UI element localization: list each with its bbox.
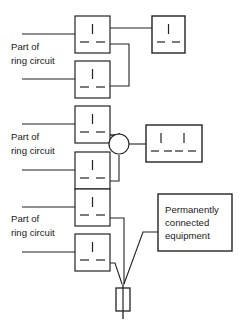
- twin-socket-outlet-2c: [146, 125, 202, 162]
- fuse-wire-upper: [110, 218, 124, 284]
- spur-socket-outlet-1c: [152, 16, 185, 53]
- socket-outlet-3a: [75, 189, 110, 226]
- socket-body: [75, 16, 110, 53]
- socket-body: [146, 125, 202, 162]
- socket-body: [75, 189, 110, 226]
- socket-body: [152, 16, 185, 53]
- junction-wire-lower-path: [110, 155, 119, 181]
- socket-body: [75, 152, 110, 189]
- row-3-group: Permanently connected equipment Part of …: [11, 189, 232, 319]
- fuse-unit-3: [116, 284, 130, 319]
- diagram-canvas: Part of ring circuit: [0, 0, 240, 326]
- socket-outlet-2a: [75, 106, 110, 143]
- row-2-group: Part of ring circuit: [11, 106, 202, 189]
- socket-outlet-1a: [75, 16, 110, 53]
- row-1-group: Part of ring circuit: [11, 16, 185, 98]
- ring-circuit-caption-3-line2: ring circuit: [11, 227, 55, 238]
- ring-circuit-caption-2-line1: Part of: [11, 131, 40, 142]
- equipment-label-line1: Permanently: [165, 204, 219, 215]
- junction-box-circle: [109, 134, 129, 154]
- junction-box-2: [109, 134, 129, 154]
- ring-circuit-caption-3-line1: Part of: [11, 213, 40, 224]
- socket-body: [75, 106, 110, 143]
- ring-circuit-caption-1-line2: ring circuit: [11, 55, 55, 66]
- socket-body: [75, 234, 110, 271]
- socket-body: [75, 61, 110, 98]
- ring-circuit-caption-2-line2: ring circuit: [11, 145, 55, 156]
- socket-outlet-1b: [75, 61, 110, 98]
- fuse-wire-lower: [110, 263, 122, 284]
- ring-loop-wire-1: [110, 44, 129, 86]
- ring-circuit-caption-1-line1: Part of: [11, 41, 40, 52]
- equipment-box-3: Permanently connected equipment: [158, 194, 232, 251]
- wiring-diagram: Part of ring circuit: [0, 0, 240, 326]
- equipment-supply-wire: [124, 232, 158, 284]
- equipment-label-line3: equipment: [165, 230, 210, 241]
- socket-outlet-3b: [75, 234, 110, 271]
- socket-outlet-2b: [75, 152, 110, 189]
- equipment-label-line2: connected: [165, 217, 209, 228]
